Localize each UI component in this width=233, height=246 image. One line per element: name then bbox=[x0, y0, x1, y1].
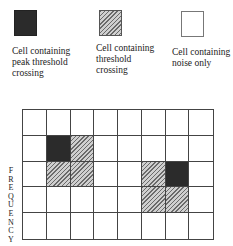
grid-cell-noise bbox=[94, 213, 118, 239]
legend-swatch-noise bbox=[181, 11, 204, 37]
grid-cell-noise bbox=[166, 110, 190, 136]
grid-cell-noise bbox=[118, 110, 142, 136]
legend-swatch-peak bbox=[14, 10, 37, 36]
grid-cell-noise bbox=[23, 110, 47, 136]
grid-cell-noise bbox=[189, 213, 213, 239]
grid-cell-noise bbox=[23, 136, 47, 162]
grid-cell-noise bbox=[189, 110, 213, 136]
grid-cell-peak bbox=[166, 162, 190, 188]
legend-label-noise: Cell containing noise only bbox=[172, 47, 230, 69]
grid-cell-noise bbox=[118, 136, 142, 162]
grid-cell-noise bbox=[189, 187, 213, 213]
frequency-axis-label: FREQUENCY bbox=[6, 167, 16, 244]
grid-cell-noise bbox=[23, 213, 47, 239]
grid-cell-thresh bbox=[71, 162, 95, 188]
grid-cell-noise bbox=[71, 110, 95, 136]
grid-cell-thresh bbox=[47, 162, 71, 188]
grid-cell-noise bbox=[189, 136, 213, 162]
grid-cell-noise bbox=[47, 110, 71, 136]
legend-label-threshold: Cell containing threshold crossing bbox=[96, 43, 154, 76]
grid-cell-thresh bbox=[142, 187, 166, 213]
grid-cell-noise bbox=[142, 213, 166, 239]
grid-cell-noise bbox=[142, 136, 166, 162]
grid-cell-noise bbox=[23, 187, 47, 213]
grid-cell-noise bbox=[94, 162, 118, 188]
grid-cell-noise bbox=[94, 187, 118, 213]
legend-swatch-threshold bbox=[99, 10, 122, 36]
grid-cell-thresh bbox=[142, 162, 166, 188]
grid-cell-noise bbox=[94, 110, 118, 136]
grid-cell-thresh bbox=[166, 187, 190, 213]
grid-cell-noise bbox=[71, 187, 95, 213]
grid-cell-noise bbox=[166, 136, 190, 162]
grid-cell-noise bbox=[118, 213, 142, 239]
grid-cell-peak bbox=[47, 136, 71, 162]
grid-cell-noise bbox=[23, 162, 47, 188]
grid-cell-noise bbox=[118, 162, 142, 188]
grid-cell-noise bbox=[47, 213, 71, 239]
grid-cell-noise bbox=[94, 136, 118, 162]
grid-cell-noise bbox=[47, 187, 71, 213]
grid-cell-thresh bbox=[71, 136, 95, 162]
grid-cell-noise bbox=[142, 110, 166, 136]
time-frequency-grid bbox=[22, 109, 214, 240]
legend-label-peak: Cell containing peak threshold crossing bbox=[12, 46, 70, 79]
grid-cell-noise bbox=[189, 162, 213, 188]
grid-cell-noise bbox=[166, 213, 190, 239]
grid-cell-noise bbox=[71, 213, 95, 239]
grid-cell-noise bbox=[118, 187, 142, 213]
